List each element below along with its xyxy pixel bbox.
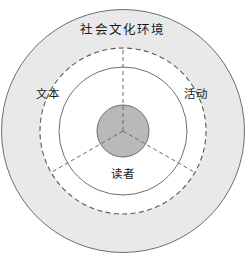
sector-label-text: 文本 — [0, 89, 123, 101]
diagram-canvas — [0, 0, 246, 262]
sector-label-activity: 活动 — [123, 89, 246, 101]
concentric-circles-diagram: 社会文化环境 文本 活动 读者 — [0, 0, 246, 262]
sector-label-reader: 读者 — [0, 169, 246, 181]
outer-ring-label: 社会文化环境 — [0, 24, 246, 37]
